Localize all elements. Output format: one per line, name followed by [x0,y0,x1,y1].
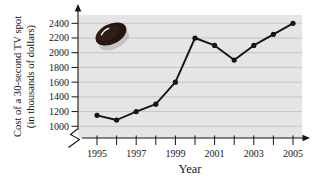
chart-figure: 10001200140016001800200022002400 1995199… [0,0,320,183]
y-tick-label-1600: 1600 [49,77,69,88]
data-point-2002 [232,58,237,63]
y-axis-break-squiggle [69,129,80,148]
y-tick-label-1200: 1200 [49,106,69,117]
y-axis-arrow [75,4,82,12]
data-point-1998 [153,102,158,107]
x-axis-title: Year [178,162,202,176]
x-tick-label-2001: 2001 [205,148,225,159]
y-tick-label-2400: 2400 [49,18,69,29]
data-point-1999 [173,80,178,85]
x-axis-tick-labels: 199519971999200120032005 [87,148,303,159]
data-point-2001 [212,43,217,48]
y-tick-label-1400: 1400 [49,91,69,102]
data-point-2003 [251,43,256,48]
x-tick-label-1995: 1995 [87,148,107,159]
data-point-1996 [114,117,119,122]
y-tick-label-2200: 2200 [49,32,69,43]
data-point-2005 [290,21,295,26]
x-tick-label-2003: 2003 [244,148,264,159]
x-tick-label-2005: 2005 [283,148,303,159]
x-axis-arrow [303,135,311,142]
data-point-1997 [134,109,139,114]
x-tick-label-1997: 1997 [126,148,146,159]
y-axis-tick-labels: 10001200140016001800200022002400 [49,18,69,132]
y-axis-ticks [72,23,79,126]
data-point-1995 [94,113,99,118]
y-tick-label-2000: 2000 [49,47,69,58]
x-tick-label-1999: 1999 [165,148,185,159]
y-axis-title-line1: Cost of a 30-second TV spot [12,16,23,137]
y-tick-label-1800: 1800 [49,62,69,73]
data-point-2000 [192,35,197,40]
data-point-2004 [271,32,276,37]
tv-spot-cost-line-chart: 10001200140016001800200022002400 1995199… [0,0,320,183]
y-tick-label-1000: 1000 [49,121,69,132]
y-axis-title-line2: (in thousands of dollars) [25,24,37,128]
